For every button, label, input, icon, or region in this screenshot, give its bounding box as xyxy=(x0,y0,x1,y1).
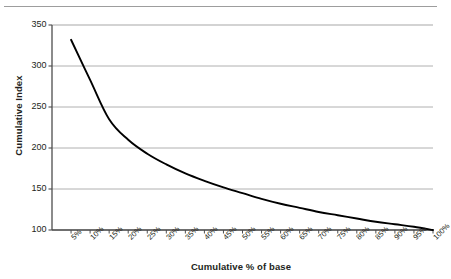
y-axis-tick-label: 350 xyxy=(13,20,47,29)
gridlines xyxy=(49,25,434,230)
y-axis-tick-label: 200 xyxy=(13,143,47,152)
y-axis-tick-label: 150 xyxy=(13,184,47,193)
y-axis-tick-label: 100 xyxy=(13,225,47,234)
y-axis-tick-label: 250 xyxy=(13,102,47,111)
data-series-line xyxy=(71,40,433,230)
y-axis-tick-label: 300 xyxy=(13,61,47,70)
